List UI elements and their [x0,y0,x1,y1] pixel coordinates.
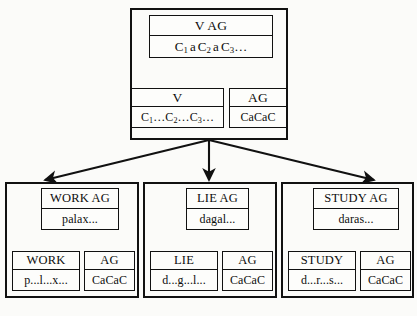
fs-root-left-child-value: C1…C2…C3… [132,107,223,127]
fs-lie-right: AG CaCaC [222,251,273,291]
fs-lie-left-value: d...g...l... [151,270,217,290]
fs-root-result-head: V AG [150,16,272,36]
fs-lie-right-value: CaCaC [223,270,272,290]
fs-work-right-head: AG [85,252,134,270]
fs-study-left-value: d...r...s... [289,270,355,290]
arrow-root-to-work [45,140,209,180]
fs-work-result-value: palax... [42,209,118,229]
fs-work-result: WORK AG palax... [41,188,119,230]
fs-work-left: WORK p...l...x... [12,251,80,291]
fs-root-result-value: C1aC2aC3… [150,36,272,57]
fs-lie-left: LIE d...g...l... [150,251,218,291]
fs-lie-right-head: AG [223,252,272,270]
fs-root-right-child-head: AG [230,89,286,107]
fs-study-left: STUDY d...r...s... [288,251,356,291]
fs-study-right-head: AG [361,252,410,270]
fs-study-left-head: STUDY [289,252,355,270]
arrow-root-to-study [209,140,374,180]
fs-study-right-value: CaCaC [361,270,410,290]
fs-study-result: STUDY AG daras... [313,188,399,230]
fs-study-right: AG CaCaC [360,251,411,291]
fs-root-right-child: AG CaCaC [229,88,287,128]
fs-lie-result-head: LIE AG [187,189,248,209]
diagram-canvas: V AG C1aC2aC3… V C1…C2…C3… AG CaCaC WORK… [0,0,417,316]
fs-lie-result: LIE AG dagal... [186,188,249,230]
fs-work-right-value: CaCaC [85,270,134,290]
fs-work-left-head: WORK [13,252,79,270]
fs-work-right: AG CaCaC [84,251,135,291]
fs-study-result-head: STUDY AG [314,189,398,209]
fs-work-result-head: WORK AG [42,189,118,209]
fs-lie-left-head: LIE [151,252,217,270]
fs-root-left-child: V C1…C2…C3… [131,88,224,128]
fs-work-left-value: p...l...x... [13,270,79,290]
fs-lie-result-value: dagal... [187,209,248,229]
fs-study-result-value: daras... [314,209,398,229]
fs-root-result: V AG C1aC2aC3… [149,15,273,58]
fs-root-left-child-head: V [132,89,223,107]
fs-root-right-child-value: CaCaC [230,107,286,127]
